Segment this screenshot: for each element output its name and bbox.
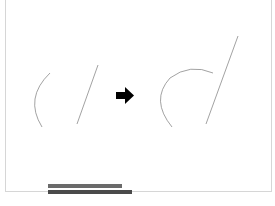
- left-line: [77, 65, 98, 124]
- right-arrow-icon: [116, 87, 134, 104]
- caption-line-1: [48, 184, 122, 188]
- left-arc: [35, 73, 50, 127]
- right-line: [206, 36, 238, 124]
- caption-line-2: [48, 190, 132, 194]
- figure-drawing: [0, 0, 275, 206]
- right-arc: [160, 69, 213, 127]
